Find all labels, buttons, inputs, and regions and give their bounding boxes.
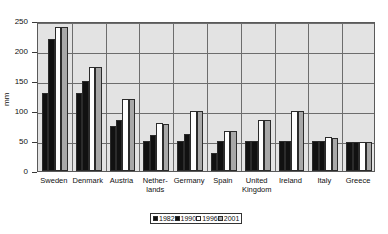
y-axis-tick-label: 100 <box>2 108 28 116</box>
legend-swatch <box>218 216 223 221</box>
gridline <box>207 23 208 171</box>
legend-item: 1982 <box>153 215 175 222</box>
legend-item: 1996 <box>196 215 218 222</box>
bar-group <box>346 23 372 171</box>
bar-group <box>177 23 203 171</box>
gridline <box>275 23 276 171</box>
y-axis-tick-label: 50 <box>2 138 28 146</box>
gridline <box>342 23 343 171</box>
y-axis-tick-label: 0 <box>2 168 28 176</box>
legend-label: 1996 <box>202 215 218 222</box>
chart-legend: 1982199019962001 <box>150 213 242 224</box>
bar-group <box>245 23 271 171</box>
y-axis-tick-label: 150 <box>2 78 28 86</box>
bar-group <box>312 23 338 171</box>
bar-group <box>211 23 237 171</box>
bar <box>332 138 338 171</box>
bar <box>230 131 236 171</box>
bar <box>61 27 67 171</box>
y-axis-tick-mark <box>32 172 37 173</box>
bar <box>95 67 101 171</box>
bar <box>197 111 203 171</box>
legend-item: 1990 <box>175 215 197 222</box>
gridline <box>139 23 140 171</box>
bar-group <box>76 23 102 171</box>
bar-group <box>279 23 305 171</box>
gridline <box>308 23 309 171</box>
gridline <box>72 23 73 171</box>
bar-group <box>42 23 68 171</box>
y-axis-tick-label: 200 <box>2 48 28 56</box>
legend-label: 1990 <box>181 215 197 222</box>
legend-item: 2001 <box>218 215 240 222</box>
legend-swatch <box>175 216 180 221</box>
gridline <box>106 23 107 171</box>
legend-label: 2001 <box>224 215 240 222</box>
gridline <box>241 23 242 171</box>
bar-group <box>143 23 169 171</box>
bar <box>163 124 169 171</box>
gridline <box>173 23 174 171</box>
y-axis-tick-label: 250 <box>2 18 28 26</box>
bar <box>298 111 304 171</box>
bar <box>129 99 135 171</box>
legend-swatch <box>196 216 201 221</box>
legend-swatch <box>153 216 158 221</box>
legend-label: 1982 <box>159 215 175 222</box>
x-axis-label: Greece <box>335 176 381 185</box>
bar-chart: mm 050100150200250 SwedenDenmarkAustriaN… <box>0 0 388 234</box>
bar-group <box>110 23 136 171</box>
bar <box>264 120 270 171</box>
bar <box>366 142 372 171</box>
plot-area <box>37 22 375 172</box>
